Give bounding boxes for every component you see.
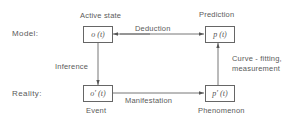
node-phenomenon: p' (t)	[205, 85, 235, 102]
node-active-state-symbol: o (t)	[91, 30, 105, 39]
node-event: o' (t)	[83, 85, 113, 102]
caption-prediction: Prediction	[199, 10, 234, 19]
node-phenomenon-symbol: p' (t)	[212, 89, 227, 98]
edge-label-measurement: measurement	[232, 64, 280, 73]
edge-label-manifestation: Manifestation	[125, 96, 172, 105]
caption-event: Event	[86, 106, 106, 115]
row-label-model: Model:	[12, 29, 38, 38]
edge-label-curve-fitting: Curve - fitting,	[232, 54, 282, 63]
caption-active-state: Active state	[80, 11, 121, 20]
node-prediction: p (t)	[205, 26, 235, 43]
node-event-symbol: o' (t)	[90, 89, 105, 98]
node-active-state: o (t)	[83, 26, 113, 43]
edge-label-inference: Inference	[55, 62, 88, 71]
row-label-reality: Reality:	[12, 89, 42, 98]
caption-phenomenon: Phenomenon	[198, 106, 245, 115]
edge-label-deduction: Deduction	[135, 24, 171, 33]
node-prediction-symbol: p (t)	[213, 30, 227, 39]
